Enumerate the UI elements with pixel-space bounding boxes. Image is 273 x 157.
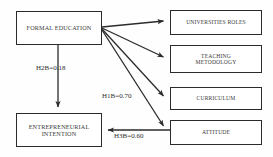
node-curriculum-label: CURRICULUM <box>195 95 238 101</box>
edge-fe-to-curriculum <box>102 29 164 96</box>
edge-label-h1b: H1B=0.70 <box>102 92 131 100</box>
edge-fe-to-teaching-metodology <box>102 28 164 57</box>
node-formal-education-label: FORMAL EDUCATION <box>25 24 94 31</box>
node-attitude[interactable]: ATTITUDE <box>170 120 262 145</box>
node-teaching-metodology-label: TEACHING METODOLOGY <box>194 53 239 66</box>
node-teaching-metodology[interactable]: TEACHING METODOLOGY <box>170 45 262 73</box>
edge-label-h3b: H3B=0.60 <box>114 132 143 140</box>
node-entrepreneurial-intention[interactable]: ENTREPRENEURIAL INTENTION <box>16 113 102 147</box>
node-entrepreneurial-intention-label: ENTREPRENEURIAL INTENTION <box>27 123 92 137</box>
node-formal-education[interactable]: FORMAL EDUCATION <box>16 11 102 45</box>
node-universities-roles-label: UNIVERSITIES ROLES <box>184 19 248 25</box>
node-curriculum[interactable]: CURRICULUM <box>170 87 262 110</box>
edge-fe-to-universities-roles <box>102 21 164 27</box>
path-diagram: FORMAL EDUCATION ENTREPRENEURIAL INTENTI… <box>0 0 273 157</box>
node-attitude-label: ATTITUDE <box>200 129 232 135</box>
node-universities-roles[interactable]: UNIVERSITIES ROLES <box>170 10 262 35</box>
edge-label-h2b: H2B=0.18 <box>36 64 65 72</box>
edge-fe-to-attitude <box>102 30 164 126</box>
